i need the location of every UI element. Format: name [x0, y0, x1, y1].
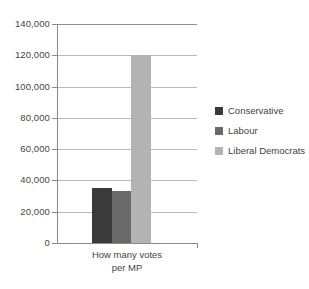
chart-legend: ConservativeLabourLiberal Democrats — [215, 101, 309, 161]
gridline — [57, 24, 197, 25]
y-axis-line — [57, 24, 58, 244]
legend-item-label: Conservative — [228, 106, 283, 116]
y-axis-tick-label: 0 — [2, 238, 50, 248]
legend-item[interactable]: Labour — [215, 121, 309, 141]
x-axis-caption-line-1: How many votes — [57, 249, 197, 262]
y-axis-tick-label: 80,000 — [2, 113, 50, 123]
bar-labour — [112, 191, 132, 243]
x-axis-end-tick — [197, 243, 198, 248]
bar-chart: 020,00040,00060,00080,000100,000120,0001… — [0, 0, 309, 289]
y-axis-tick-label: 60,000 — [2, 144, 50, 154]
legend-item-label: Liberal Democrats — [228, 146, 305, 156]
y-axis-tick-label-wrap: 140,000 — [0, 19, 50, 29]
gridline — [57, 55, 197, 56]
y-axis-tick — [52, 87, 57, 88]
gridline — [57, 87, 197, 88]
plot-area — [57, 24, 197, 243]
legend-item[interactable]: Conservative — [215, 101, 309, 121]
y-axis-tick-label-wrap: 20,000 — [0, 207, 50, 217]
y-axis-tick-label: 140,000 — [2, 19, 50, 29]
y-axis-tick-label-wrap: 100,000 — [0, 82, 50, 92]
bar-liberal-democrats — [131, 55, 151, 243]
legend-swatch-icon — [215, 127, 223, 135]
legend-item[interactable]: Liberal Democrats — [215, 141, 309, 161]
y-axis-tick-label: 40,000 — [2, 175, 50, 185]
x-axis-caption: How many votes per MP — [57, 249, 197, 274]
legend-swatch-icon — [215, 147, 223, 155]
y-axis-tick — [52, 212, 57, 213]
y-axis-tick-label-wrap: 0 — [0, 238, 50, 248]
y-axis-tick-label-wrap: 60,000 — [0, 144, 50, 154]
gridline — [57, 118, 197, 119]
y-axis-tick-label: 100,000 — [2, 82, 50, 92]
y-axis-tick — [52, 55, 57, 56]
x-axis-caption-line-2: per MP — [57, 262, 197, 275]
y-axis-tick — [52, 180, 57, 181]
legend-item-label: Labour — [228, 126, 258, 136]
y-axis-tick-label-wrap: 80,000 — [0, 113, 50, 123]
y-axis-tick-label-wrap: 120,000 — [0, 50, 50, 60]
gridline — [57, 180, 197, 181]
y-axis-tick — [52, 149, 57, 150]
x-axis-line — [57, 243, 198, 244]
y-axis-tick-label-wrap: 40,000 — [0, 175, 50, 185]
y-axis-tick-label: 120,000 — [2, 50, 50, 60]
y-axis-tick — [52, 24, 57, 25]
y-axis-tick-label: 20,000 — [2, 207, 50, 217]
gridline — [57, 149, 197, 150]
bar-conservative — [92, 188, 112, 243]
legend-swatch-icon — [215, 107, 223, 115]
y-axis-tick — [52, 118, 57, 119]
y-axis-tick — [52, 243, 57, 244]
